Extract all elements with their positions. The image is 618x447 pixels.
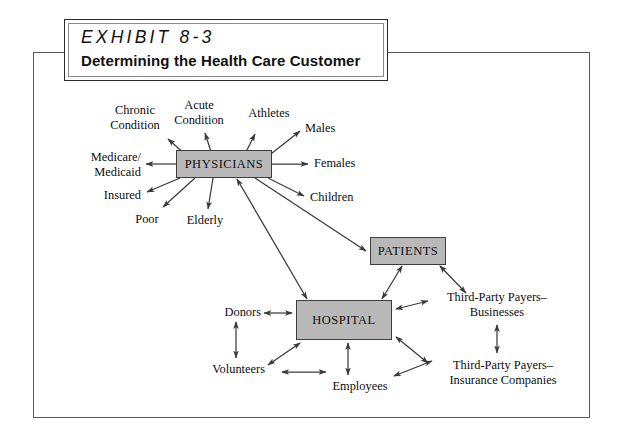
label-third-party-payers-insurance: Third-Party Payers– Insurance Companies: [432, 358, 574, 387]
label-medicare-medicaid-line2: Medicaid: [63, 165, 141, 180]
edge-patients-tpp-business: [440, 266, 466, 293]
label-children: Children: [310, 190, 372, 205]
edge-employees-tpp-insurance: [394, 361, 432, 376]
edge-hospital-tpp-business: [396, 301, 428, 309]
label-medicare-medicaid-line1: Medicare/: [63, 150, 141, 165]
edge-physicians-insured: [147, 178, 180, 192]
label-tpp-insurance-line1: Third-Party Payers–: [432, 358, 574, 373]
label-acute-condition: Acute Condition: [165, 98, 233, 127]
label-males: Males: [305, 121, 365, 136]
label-tpp-insurance-line2: Insurance Companies: [432, 373, 574, 388]
edge-physicians-hospital: [237, 179, 307, 299]
node-hospital[interactable]: HOSPITAL: [296, 300, 392, 340]
exhibit-page: EXHIBIT 8-3 Determining the Health Care …: [0, 0, 618, 447]
edge-hospital-tpp-insurance: [396, 337, 428, 363]
label-third-party-payers-businesses: Third-Party Payers– Businesses: [432, 290, 562, 319]
label-chronic-condition: Chronic Condition: [100, 103, 170, 132]
label-medicare-medicaid: Medicare/ Medicaid: [63, 150, 141, 179]
label-athletes: Athletes: [238, 106, 300, 121]
label-elderly: Elderly: [181, 213, 229, 228]
label-females: Females: [314, 156, 378, 171]
edge-hospital-volunteers: [268, 343, 300, 365]
label-tpp-businesses-line1: Third-Party Payers–: [432, 290, 562, 305]
edge-physicians-children: [268, 178, 304, 196]
label-acute-condition-line2: Condition: [165, 113, 233, 128]
edge-physicians-elderly: [208, 178, 213, 209]
edge-physicians-patients: [255, 178, 366, 251]
label-chronic-condition-line2: Condition: [100, 118, 170, 133]
edge-physicians-poor: [163, 178, 195, 207]
label-donors: Donors: [199, 305, 261, 320]
page-title: Determining the Health Care Customer: [81, 51, 387, 71]
label-acute-condition-line1: Acute: [165, 98, 233, 113]
label-poor: Poor: [124, 212, 170, 227]
edge-patients-hospital: [382, 266, 402, 299]
label-insured: Insured: [85, 188, 141, 203]
exhibit-number-label: EXHIBIT 8-3: [81, 26, 387, 48]
label-volunteers: Volunteers: [195, 362, 265, 377]
label-tpp-businesses-line2: Businesses: [432, 305, 562, 320]
exhibit-title-box: EXHIBIT 8-3 Determining the Health Care …: [64, 19, 388, 81]
label-employees: Employees: [325, 379, 395, 394]
label-chronic-condition-line1: Chronic: [100, 103, 170, 118]
node-physicians[interactable]: PHYSICIANS: [176, 150, 272, 178]
node-patients[interactable]: PATIENTS: [370, 237, 446, 265]
